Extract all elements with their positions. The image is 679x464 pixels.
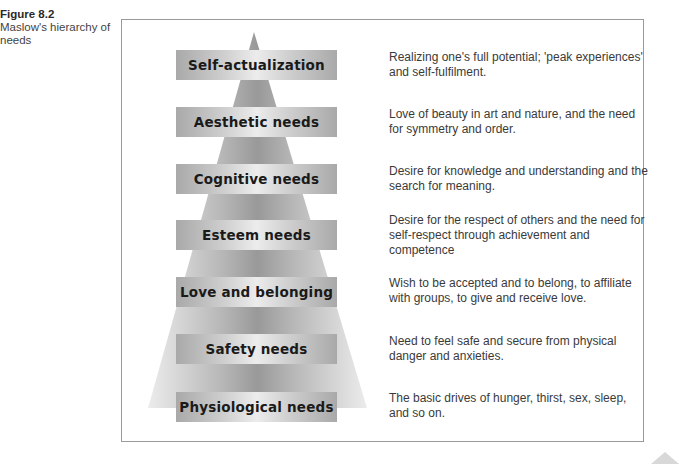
description-aesthetic-needs: Love of beauty in art and nature, and th… <box>389 107 649 137</box>
description-self-actualization: Realizing one's full potential; 'peak ex… <box>389 50 649 80</box>
description-safety-needs: Need to feel safe and secure from physic… <box>389 334 649 364</box>
figure-title: Maslow's hierarchy of needs <box>0 21 110 46</box>
description-esteem-needs: Desire for the respect of others and the… <box>389 213 649 258</box>
level-physiological-needs: Physiological needs <box>176 392 337 422</box>
level-aesthetic-needs: Aesthetic needs <box>176 107 337 137</box>
description-physiological-needs: The basic drives of hunger, thirst, sex,… <box>389 391 649 421</box>
level-love-and-belonging: Love and belonging <box>176 277 337 307</box>
description-cognitive-needs: Desire for knowledge and understanding a… <box>389 164 649 194</box>
page-corner-triangle-icon <box>651 452 679 464</box>
level-safety-needs: Safety needs <box>176 334 337 364</box>
description-love-and-belonging: Wish to be accepted and to belong, to af… <box>389 276 649 306</box>
level-esteem-needs: Esteem needs <box>176 220 337 250</box>
level-cognitive-needs: Cognitive needs <box>176 164 337 194</box>
level-self-actualization: Self-actualization <box>176 50 337 80</box>
figure-caption: Figure 8.2 Maslow's hierarchy of needs <box>0 8 118 47</box>
figure-label: Figure 8.2 <box>0 8 118 21</box>
